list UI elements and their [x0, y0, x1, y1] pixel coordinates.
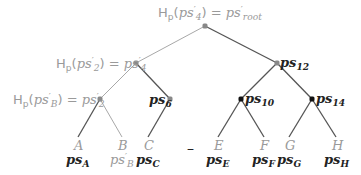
hash-fn: H: [158, 5, 168, 20]
leaf-hash-sub: H: [340, 158, 349, 169]
hash-sub: 12: [296, 61, 309, 72]
rhs-sub: 4: [141, 63, 147, 73]
leaf-letter: G: [285, 139, 295, 152]
leaf-hash: psE: [206, 153, 229, 168]
rhs-sub: root: [243, 12, 262, 22]
ps12-label: ps12: [280, 56, 309, 71]
leaf-hash: psF: [252, 153, 275, 168]
equals: =: [211, 5, 222, 20]
hash-main: ps: [245, 91, 261, 106]
leaf-hash-sub: B: [127, 159, 134, 169]
leaf-hash: psH: [324, 153, 349, 168]
hash-main: ps: [149, 92, 165, 107]
hash-fn: H: [56, 56, 66, 71]
leaf-letter: E: [214, 139, 224, 152]
arg: ps: [34, 92, 49, 107]
leaf-hash-main: ps: [324, 152, 340, 167]
leaf-letter: A: [74, 139, 83, 152]
leaf-hash-sub: E: [222, 158, 229, 169]
leaf-hash: psA: [66, 153, 89, 168]
leaf-hash-main: ps: [252, 152, 268, 167]
deleted-leaf-marker: –: [187, 141, 194, 155]
rhs: ps: [82, 92, 97, 107]
leaf-hash-main: ps: [66, 152, 82, 167]
hash-main: ps: [280, 55, 296, 70]
tree-edge: [205, 26, 277, 63]
ps14-label: ps14: [316, 92, 345, 107]
arg: ps: [77, 56, 92, 71]
leaf-hash-sub: G: [293, 158, 301, 169]
ps4-prime-label: Hp(ps′2) = ps′4: [56, 57, 147, 73]
rhs-sub: 2: [99, 99, 105, 109]
leaf-hash-sub: F: [268, 158, 274, 169]
rhs: ps: [124, 56, 139, 71]
hash-main: ps: [316, 91, 332, 106]
tree-node-ps12: [275, 61, 280, 66]
ps6-label: ps6: [149, 93, 172, 108]
hash-fn: H: [13, 92, 23, 107]
tree-node-root: [203, 24, 208, 29]
leaf-letter: C: [144, 139, 154, 152]
leaf-letter: F: [260, 139, 269, 152]
hash-sub: 10: [261, 97, 274, 108]
leaf-hash: ps′B: [110, 153, 134, 169]
tree-edge: [289, 99, 312, 137]
tree-node-ps10: [239, 97, 244, 102]
leaf-hash: psG: [277, 153, 301, 168]
leaf-hash-sub: A: [82, 158, 89, 169]
leaf-hash-sub: C: [152, 158, 159, 169]
leaf-hash-main: ps: [277, 152, 293, 167]
ps2-prime-label: Hp(ps′B) = ps′2: [13, 93, 105, 109]
rhs: ps: [226, 5, 241, 20]
merkle-tree-edges: [0, 0, 361, 175]
ps10-label: ps10: [245, 92, 274, 107]
leaf-letter: H: [332, 139, 343, 152]
equals: =: [109, 56, 120, 71]
leaf-hash-main: ps: [136, 152, 152, 167]
leaf-hash: psC: [136, 153, 160, 168]
leaf-hash-main: ps: [206, 152, 222, 167]
root-label: Hp(ps′4) = ps′root: [158, 6, 262, 22]
leaf-hash-main: ps: [110, 152, 125, 167]
hash-sub: 14: [332, 97, 345, 108]
leaf-letter: B: [118, 139, 128, 152]
tree-edge: [218, 99, 241, 137]
hash-sub: 6: [165, 98, 171, 109]
arg: ps: [179, 5, 194, 20]
tree-node-ps14: [310, 97, 315, 102]
equals: =: [67, 92, 78, 107]
